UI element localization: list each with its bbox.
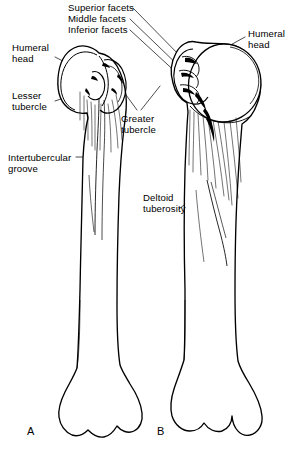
- humerus-anterior: [58, 46, 142, 437]
- humerus-figure: Superior facets Middle facets Inferior f…: [0, 0, 302, 452]
- label-greater-tubercle: Greater tubercle: [121, 113, 156, 136]
- humerus-a-outline: [58, 46, 142, 437]
- label-humeral-head-posterior: Humeral head: [248, 28, 285, 51]
- panel-letter-a: A: [27, 425, 34, 437]
- label-deltoid-tuberosity: Deltoid tuberosity: [143, 192, 186, 215]
- label-lesser-tubercle: Lesser tubercle: [12, 90, 47, 113]
- humerus-b-head-sphere: [189, 44, 261, 122]
- leader-greater-tubercle-right: [141, 86, 160, 110]
- label-intertubercular-groove: Intertubercular groove: [8, 152, 71, 175]
- humerus-posterior: [171, 42, 262, 436]
- label-superior-facets: Superior facets: [68, 2, 134, 13]
- humerus-illustration: [0, 0, 302, 452]
- label-humeral-head-anterior: Humeral head: [12, 42, 49, 65]
- label-inferior-facets: Inferior facets: [68, 24, 128, 35]
- panel-letter-b: B: [157, 425, 164, 437]
- label-middle-facets: Middle facets: [68, 13, 126, 24]
